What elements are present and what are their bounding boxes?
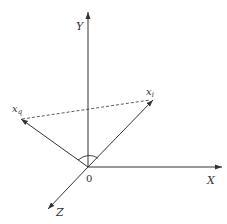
z-axis-label: Z <box>55 206 64 219</box>
vector-xi <box>88 100 153 167</box>
origin-label: 0 <box>86 173 92 184</box>
xi-label: xi <box>146 86 154 99</box>
y-axis-label: Y <box>76 20 85 33</box>
dashed-connector <box>22 100 150 119</box>
vector-diagram: Y X Z 0 xi xq <box>0 0 227 224</box>
z-axis <box>48 167 88 209</box>
x-axis-label: X <box>206 174 216 187</box>
xq-label: xq <box>12 103 23 116</box>
